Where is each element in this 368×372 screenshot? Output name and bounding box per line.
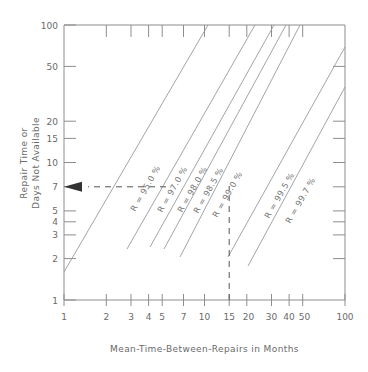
y-label-15: 15 xyxy=(47,134,58,144)
x-label-4: 4 xyxy=(146,312,152,322)
chart-canvas: 100 50 20 15 10 7 5 4 3 2 1 1 2 3 4 5 7 … xyxy=(0,0,368,372)
x-label-100: 100 xyxy=(336,312,353,322)
x-label-10: 10 xyxy=(199,312,211,322)
y-label-5: 5 xyxy=(52,206,58,216)
x-axis-tick-labels: 1 2 3 4 5 7 10 15 20 30 40 50 100 xyxy=(61,312,354,322)
y-label-50: 50 xyxy=(47,62,59,72)
y-label-100: 100 xyxy=(41,21,58,31)
x-label-15: 15 xyxy=(223,312,234,322)
availability-nomograph-chart: 100 50 20 15 10 7 5 4 3 2 1 1 2 3 4 5 7 … xyxy=(0,0,368,372)
r-curve-99-5 xyxy=(228,47,345,257)
y-axis-ticks xyxy=(64,25,76,300)
x-label-50: 50 xyxy=(299,312,311,322)
y-axis-title-line2: Days Not Available xyxy=(31,117,41,209)
y-label-3: 3 xyxy=(52,230,58,240)
r-curve-99-0 xyxy=(180,25,300,257)
r-curve-99-7 xyxy=(248,87,345,266)
y-axis-right-ticks xyxy=(333,66,345,258)
y-label-4: 4 xyxy=(52,217,58,227)
r-curve-97-0 xyxy=(127,25,255,249)
readout-arrow-icon xyxy=(64,182,82,192)
y-label-10: 10 xyxy=(47,158,59,168)
y-label-20: 20 xyxy=(47,117,59,127)
r-curve-labels: R = 95.0 % R = 97.0 % R = 98.0 % R = 98.… xyxy=(128,164,317,225)
x-label-1: 1 xyxy=(61,312,67,322)
x-label-7: 7 xyxy=(181,312,187,322)
y-axis-tick-labels: 100 50 20 15 10 7 5 4 3 2 1 xyxy=(41,21,58,306)
y-label-7: 7 xyxy=(52,182,58,192)
y-axis-title-line1: Repair Time or xyxy=(19,127,29,198)
x-label-2: 2 xyxy=(103,312,109,322)
x-label-30: 30 xyxy=(266,312,278,322)
x-label-3: 3 xyxy=(128,312,134,322)
x-label-40: 40 xyxy=(283,312,295,322)
y-label-1: 1 xyxy=(52,296,58,306)
x-axis-title: Mean-Time-Between-Repairs in Months xyxy=(110,344,299,354)
x-label-5: 5 xyxy=(159,312,165,322)
y-label-2: 2 xyxy=(52,254,58,264)
r-curve-95-0 xyxy=(64,25,208,272)
r-curves xyxy=(64,25,345,272)
x-axis-ticks xyxy=(64,294,345,306)
plot-frame xyxy=(64,25,345,300)
x-label-20: 20 xyxy=(243,312,255,322)
